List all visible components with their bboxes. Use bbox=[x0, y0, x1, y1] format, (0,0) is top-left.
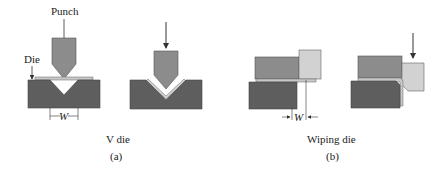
wiping-die bbox=[249, 82, 297, 109]
die-label: Die bbox=[24, 53, 40, 65]
bending-dies-diagram: Punch Die W V die (a) W bbox=[0, 0, 445, 171]
sub-b: (b) bbox=[326, 150, 339, 163]
sub-a: (a) bbox=[110, 150, 123, 163]
v-die-before: Punch Die W bbox=[24, 5, 100, 122]
w-label-b: W bbox=[294, 111, 304, 123]
pressure-pad bbox=[255, 57, 299, 79]
wiping-punch bbox=[402, 63, 424, 91]
pressure-pad bbox=[358, 56, 402, 78]
sheet bbox=[35, 77, 93, 80]
punch-label: Punch bbox=[51, 5, 79, 17]
wiping-die-before: W bbox=[249, 50, 321, 123]
v-die bbox=[28, 80, 100, 108]
caption-a: V die bbox=[106, 133, 130, 145]
sheet bbox=[256, 79, 316, 82]
wiping-die-after bbox=[351, 33, 424, 108]
caption-b: Wiping die bbox=[307, 133, 356, 145]
punch bbox=[52, 38, 76, 79]
wiping-punch bbox=[299, 50, 321, 79]
wiping-die bbox=[351, 81, 400, 108]
punch bbox=[154, 51, 178, 89]
w-label-a: W bbox=[59, 110, 69, 122]
v-die-after bbox=[130, 22, 202, 109]
